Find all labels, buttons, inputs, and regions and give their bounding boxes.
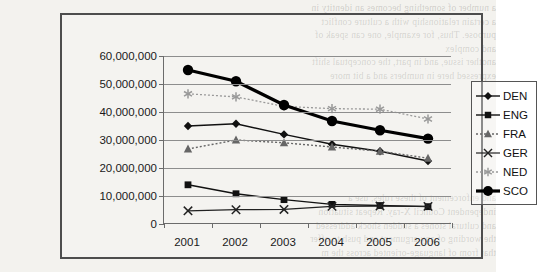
legend-swatch-diamond-icon: [475, 89, 501, 103]
data-series-ned: [184, 89, 432, 123]
y-axis-tick-labels: 010,000,00020,000,00030,000,00040,000,00…: [62, 56, 157, 224]
data-point-marker: [281, 196, 288, 203]
x-axis-tick-mark: [164, 223, 165, 228]
x-axis-tick-mark: [260, 223, 261, 228]
series-line: [188, 140, 428, 158]
y-axis-tick-label: 30,000,000: [99, 134, 157, 146]
legend-item-ger: GER: [472, 143, 536, 162]
y-axis-tick-label: 0: [151, 218, 157, 230]
x-axis-tick-mark: [356, 223, 357, 228]
legend-swatch-circle-icon: [475, 184, 501, 198]
legend-label: GER: [503, 147, 528, 159]
series-line: [188, 70, 428, 139]
y-axis-tick-label: 10,000,000: [99, 190, 157, 202]
y-axis-tick-label: 20,000,000: [99, 162, 157, 174]
x-axis-tick-label: 2006: [414, 236, 440, 248]
y-axis-tick-label: 50,000,000: [99, 78, 157, 90]
legend-swatch-cross-icon: [475, 146, 501, 160]
x-axis-tick-label: 2005: [366, 236, 392, 248]
legend-swatch-square-icon: [475, 108, 501, 122]
data-point-marker: [375, 125, 385, 135]
legend-swatch-triangle-icon: [475, 127, 501, 141]
data-point-marker: [184, 89, 192, 98]
plot-area: [163, 56, 451, 224]
data-point-marker: [327, 116, 337, 126]
x-axis-tick-mark: [452, 223, 453, 228]
x-axis-tick-mark: [404, 223, 405, 228]
data-point-marker: [423, 133, 433, 143]
y-axis-tick-label: 40,000,000: [99, 106, 157, 118]
legend-item-sco: SCO: [472, 181, 536, 200]
series-line: [188, 206, 428, 211]
gridline: [164, 196, 451, 197]
x-axis-tick-label: 2002: [222, 236, 248, 248]
x-axis-tick-label: 2001: [174, 236, 200, 248]
data-series-ger: [184, 202, 432, 215]
data-point-marker: [424, 154, 432, 162]
chart-legend: DENENGFRAGERNEDSCO: [471, 81, 537, 205]
data-point-marker: [279, 100, 289, 110]
legend-label: ENG: [503, 109, 528, 121]
data-point-marker: [184, 145, 192, 153]
legend-item-ned: NED: [472, 162, 536, 181]
data-point-marker: [280, 130, 288, 138]
gridline: [164, 140, 451, 141]
gridline: [164, 168, 451, 169]
gridline: [164, 84, 451, 85]
legend-label: SCO: [503, 185, 528, 197]
gridline: [164, 112, 451, 113]
gridline: [164, 56, 451, 57]
y-axis-tick-label: 60,000,000: [99, 50, 157, 62]
data-point-marker: [184, 122, 192, 130]
legend-label: NED: [503, 166, 527, 178]
legend-item-fra: FRA: [472, 124, 536, 143]
x-axis-tick-label: 2003: [270, 236, 296, 248]
data-point-marker: [424, 114, 432, 123]
x-axis-tick-label: 2004: [318, 236, 344, 248]
x-axis-tick-mark: [308, 223, 309, 228]
data-point-marker: [185, 181, 192, 188]
x-axis-tick-labels: 200120022003200420052006: [163, 236, 451, 252]
legend-item-den: DEN: [472, 86, 536, 105]
legend-label: FRA: [503, 128, 526, 140]
series-line: [188, 94, 428, 119]
legend-label: DEN: [503, 90, 527, 102]
data-point-marker: [183, 65, 193, 75]
data-series-sco: [183, 65, 433, 144]
x-axis-tick-mark: [212, 223, 213, 228]
data-point-marker: [232, 120, 240, 128]
figure-frame: 010,000,00020,000,00030,000,00040,000,00…: [60, 13, 483, 259]
legend-swatch-star-icon: [475, 165, 501, 179]
legend-item-eng: ENG: [472, 105, 536, 124]
